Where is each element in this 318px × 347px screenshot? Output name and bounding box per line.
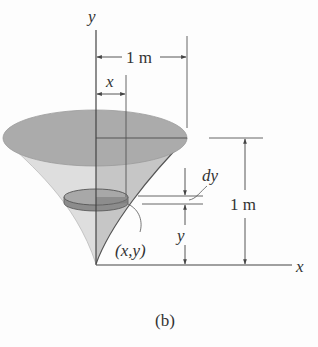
disk-thickness-label: dy xyxy=(202,166,219,185)
height-dimension-label: 1 m xyxy=(230,195,256,214)
y-axis-label: y xyxy=(86,7,96,26)
point-leader-line xyxy=(128,204,141,232)
dy-leader-line xyxy=(189,186,207,200)
x-axis-label: x xyxy=(295,257,304,276)
diagram-canvas: y x 1 m x 1 m dy y (x,y) (b) xyxy=(0,0,318,347)
disk-radius-label: x xyxy=(105,72,114,91)
disk-height-label: y xyxy=(175,226,185,245)
diagram-figure: y x 1 m x 1 m dy y (x,y) (b) xyxy=(0,0,318,347)
point-label: (x,y) xyxy=(115,241,146,260)
radius-dimension-label: 1 m xyxy=(126,48,152,67)
figure-caption: (b) xyxy=(155,311,175,330)
